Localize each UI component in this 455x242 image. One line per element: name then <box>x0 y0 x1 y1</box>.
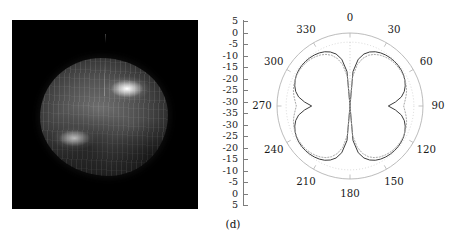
radial-tick-mark <box>243 79 248 80</box>
radial-tick-mark <box>243 194 248 195</box>
radial-tick-mark <box>243 136 248 137</box>
surface-axis-tick-top <box>105 34 106 43</box>
radial-tick-mark <box>243 21 248 22</box>
polar-angle-tick <box>384 165 386 169</box>
polar-angle-tick <box>409 140 413 142</box>
radial-tick-label: -35 <box>223 108 238 118</box>
radial-tick-label: -10 <box>223 166 238 176</box>
radial-tick-label: -5 <box>229 177 238 187</box>
radial-tick-label: -25 <box>223 85 238 95</box>
polar-angle-label-270: 270 <box>252 101 271 111</box>
surface-plot-panel <box>12 20 198 209</box>
radial-tick-label: -15 <box>223 62 238 72</box>
radial-tick-label: -15 <box>223 154 238 164</box>
radial-tick-mark <box>243 67 248 68</box>
radial-tick-label: -25 <box>223 131 238 141</box>
polar-angle-label-180: 180 <box>340 189 359 199</box>
radial-tick-label: -30 <box>223 97 238 107</box>
radial-tick-label: 5 <box>232 16 238 26</box>
polar-curves <box>293 52 406 161</box>
polar-angle-tick <box>287 140 291 142</box>
radial-tick-mark <box>243 148 248 149</box>
radial-scale-axis: 50-5-10-15-20-25-30-35-30-25-20-15-10-50… <box>214 17 248 209</box>
polar-angle-label-240: 240 <box>264 145 283 155</box>
polar-angle-label-210: 210 <box>296 177 315 187</box>
polar-angle-label-30: 30 <box>388 25 401 35</box>
polar-angle-tick <box>409 70 413 72</box>
polar-angle-label-0: 0 <box>347 13 353 23</box>
radial-tick-mark <box>243 56 248 57</box>
radial-tick-mark <box>243 102 248 103</box>
surface-axis-marker-left <box>14 149 32 161</box>
radial-tick-label: -20 <box>223 143 238 153</box>
radial-tick-mark <box>243 44 248 45</box>
radial-tick-mark <box>243 113 248 114</box>
polar-plot-svg <box>250 4 455 212</box>
polar-angle-tick <box>384 43 386 47</box>
polar-angle-tick <box>287 70 291 72</box>
figure-panel-d: 50-5-10-15-20-25-30-35-30-25-20-15-10-50… <box>0 0 455 242</box>
radial-tick-mark <box>243 159 248 160</box>
radial-tick-mark <box>243 90 248 91</box>
polar-angle-label-90: 90 <box>432 101 445 111</box>
radial-tick-label: -30 <box>223 120 238 130</box>
polar-angle-tick <box>314 43 316 47</box>
radial-tick-label: 0 <box>232 28 238 38</box>
radial-tick-label: -5 <box>229 39 238 49</box>
radial-tick-mark <box>243 33 248 34</box>
radial-tick-label: -10 <box>223 51 238 61</box>
radial-tick-label: 0 <box>232 189 238 199</box>
surface-axis-marker-right <box>178 149 196 161</box>
radial-tick-mark <box>243 205 248 206</box>
radial-tick-mark <box>243 182 248 183</box>
figure-caption: (d) <box>210 218 256 230</box>
polar-angle-label-300: 300 <box>264 57 283 67</box>
polar-angle-label-60: 60 <box>420 57 433 67</box>
radial-tick-mark <box>243 125 248 126</box>
radial-tick-label: 5 <box>232 200 238 210</box>
polar-angle-label-330: 330 <box>296 25 315 35</box>
radial-tick-label: -20 <box>223 74 238 84</box>
polar-plot: 0306090120150180210240270300330 <box>250 4 455 212</box>
polar-angle-label-120: 120 <box>416 145 435 155</box>
surface-vertical-axis <box>104 60 105 96</box>
polar-angle-label-150: 150 <box>384 177 403 187</box>
radial-tick-mark <box>243 171 248 172</box>
radiation-surface-blob <box>40 58 168 176</box>
polar-angle-tick <box>314 165 316 169</box>
